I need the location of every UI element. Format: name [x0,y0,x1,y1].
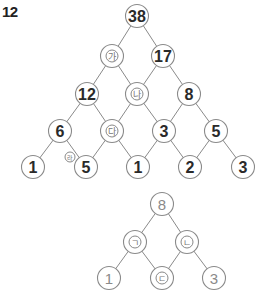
sub-node-8: 8 [151,193,174,216]
sub-node-digeut: ㄷ [151,267,174,290]
node-value: 1 [134,159,143,176]
number-pyramid-diagram: 38 가 17 12 나 8 6 [0,0,259,301]
node-5-bottom: 5 [75,156,98,179]
node-value: 1 [105,270,113,287]
node-value: 6 [56,123,65,140]
node-label: 가 [108,52,116,62]
node-8: 8 [178,83,201,106]
sub-node-nieun: ㄴ [176,231,199,254]
node-value: 38 [128,8,146,25]
node-value: 12 [78,86,96,103]
node-3: 3 [153,120,176,143]
sub-node-3: 3 [203,267,226,290]
sub-node-1: 1 [98,267,121,290]
node-label: ㄱ [131,238,139,248]
node-label: ㄴ [183,238,191,248]
node-value: 5 [82,159,91,176]
node-5: 5 [205,120,228,143]
node-1-left: 1 [22,156,45,179]
node-na: 나 [126,83,149,106]
node-value: 17 [154,48,172,65]
node-label: 나 [133,90,141,100]
node-da: 다 [101,120,124,143]
pyramid-nodes: 38 가 17 12 나 8 6 [22,5,255,179]
node-label: ㄷ [158,274,166,284]
node-value: 3 [239,159,248,176]
side-label-text: 라 [67,154,73,162]
node-38: 38 [126,5,149,28]
node-12: 12 [76,83,99,106]
node-1-middle: 1 [127,156,150,179]
node-value: 3 [160,123,169,140]
node-value: 8 [185,86,194,103]
node-value: 8 [158,196,166,213]
node-label: 다 [108,127,117,137]
node-3-bottom: 3 [232,156,255,179]
node-ga: 가 [101,45,124,68]
node-17: 17 [152,45,175,68]
node-value: 3 [210,270,218,287]
node-6: 6 [49,120,72,143]
node-value: 1 [29,159,38,176]
sub-pyramid-nodes: 8 ㄱ ㄴ 1 ㄷ 3 [98,193,226,290]
sub-node-giyeok: ㄱ [124,231,147,254]
node-2: 2 [179,156,202,179]
node-value: 5 [212,123,221,140]
side-label-ra: 라 [65,152,75,162]
node-value: 2 [186,159,195,176]
